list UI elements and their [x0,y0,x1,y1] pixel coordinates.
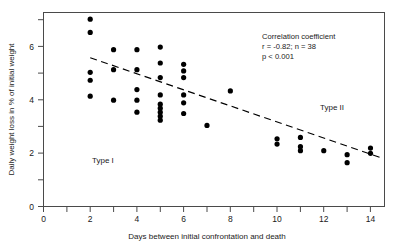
data-point [181,92,186,97]
x-axis-tick-labels: 0 2 4 6 8 10 12 14 [41,214,375,224]
data-point [88,17,93,22]
x-tick-label-0: 0 [41,214,46,224]
correlation-heading: Correlation coefficient [262,32,336,41]
data-point [111,47,116,52]
data-point [134,98,139,103]
group-label-type-two: Type II [320,103,344,112]
data-point [181,68,186,73]
x-tick-label-12: 12 [319,214,329,224]
data-point [158,75,163,80]
group-label-type-one: Type I [92,156,114,165]
x-axis-title: Days between initial confrontation and d… [128,232,285,241]
correlation-values: r = -0.82; n = 38 [262,42,316,51]
data-point [345,160,350,165]
y-tick-label-6: 6 [29,42,34,52]
x-tick-label-8: 8 [228,214,233,224]
scatter-plot-figure: 0 2 4 6 0 2 4 6 8 1 [0,0,406,248]
y-axis-ticks [38,20,44,207]
data-point [158,92,163,97]
data-point [88,70,93,75]
data-point [368,151,373,156]
data-point [274,136,279,141]
x-tick-label-14: 14 [366,214,376,224]
data-point [181,111,186,116]
data-point [345,152,350,157]
data-point [111,67,116,72]
y-tick-label-2: 2 [29,148,34,158]
y-axis-tick-labels: 0 2 4 6 [29,42,34,212]
data-point [111,98,116,103]
data-point [181,62,186,67]
data-point [134,110,139,115]
data-point [88,78,93,83]
statistics-annotation: Correlation coefficient r = -0.82; n = 3… [262,32,336,61]
x-axis-ticks [44,207,371,213]
y-tick-label-0: 0 [29,202,34,212]
data-point [134,87,139,92]
data-point [204,123,209,128]
data-point [181,100,186,105]
data-point [321,148,326,153]
y-tick-label-4: 4 [29,95,34,105]
data-point [298,135,303,140]
x-tick-label-2: 2 [88,214,93,224]
data-point [88,94,93,99]
data-point [158,118,163,123]
data-point [88,30,93,35]
data-point [134,47,139,52]
x-tick-label-4: 4 [135,214,140,224]
data-point [228,88,233,93]
data-point [134,67,139,72]
data-point [181,75,186,80]
x-tick-label-10: 10 [272,214,282,224]
data-point [158,60,163,65]
data-point [298,148,303,153]
p-value-text: p < 0.001 [262,52,294,61]
data-point [158,44,163,49]
data-point [274,141,279,146]
data-point [368,145,373,150]
y-axis-title: Daily weight loss in % of initial weight [7,43,16,176]
x-tick-label-6: 6 [181,214,186,224]
plot-canvas: 0 2 4 6 0 2 4 6 8 1 [0,0,406,248]
